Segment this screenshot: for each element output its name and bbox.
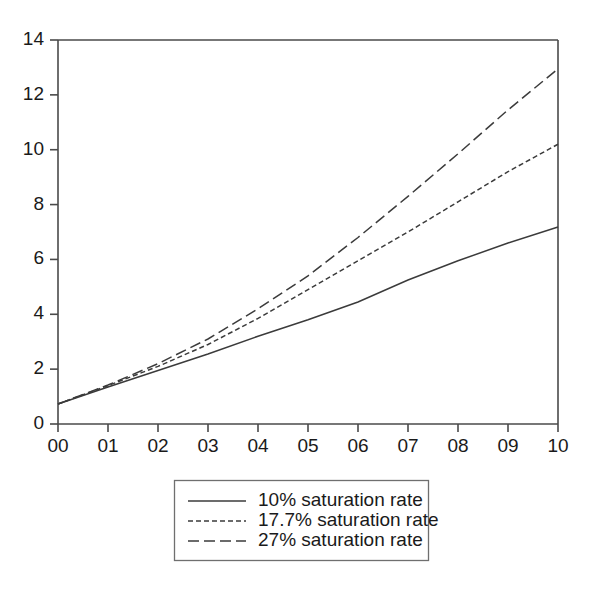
y-tick-label: 10 xyxy=(23,138,44,159)
x-tick-label: 08 xyxy=(447,435,468,456)
chart-legend: 10% saturation rate17.7% saturation rate… xyxy=(175,481,439,561)
y-tick-label: 4 xyxy=(33,302,44,323)
legend-label-2: 17.7% saturation rate xyxy=(258,509,439,530)
series-line-2 xyxy=(58,144,558,404)
y-tick-label: 14 xyxy=(23,28,45,49)
legend-label-3: 27% saturation rate xyxy=(258,529,423,550)
y-tick-label: 0 xyxy=(33,412,44,433)
x-axis-tick-labels: 0001020304050607080910 xyxy=(47,435,568,456)
chart-series-group xyxy=(58,69,558,404)
x-tick-label: 07 xyxy=(397,435,418,456)
y-tick-label: 12 xyxy=(23,83,44,104)
x-tick-label: 02 xyxy=(147,435,168,456)
y-axis-ticks xyxy=(50,40,58,424)
x-tick-label: 05 xyxy=(297,435,318,456)
y-tick-label: 2 xyxy=(33,357,44,378)
chart-figure: 14 12 10 8 6 4 2 0 000102030405060708091… xyxy=(0,0,604,591)
x-tick-label: 06 xyxy=(347,435,368,456)
x-tick-label: 03 xyxy=(197,435,218,456)
series-line-3 xyxy=(58,69,558,404)
x-tick-label: 01 xyxy=(97,435,118,456)
series-line-1 xyxy=(58,227,558,404)
x-axis-ticks xyxy=(58,424,558,432)
x-tick-label: 10 xyxy=(547,435,568,456)
x-tick-label: 00 xyxy=(47,435,68,456)
x-tick-label: 04 xyxy=(247,435,269,456)
legend-label-1: 10% saturation rate xyxy=(258,489,423,510)
y-axis-tick-labels: 14 12 10 8 6 4 2 0 xyxy=(23,28,45,433)
y-tick-label: 6 xyxy=(33,247,44,268)
y-tick-label: 8 xyxy=(33,193,44,214)
line-chart: 14 12 10 8 6 4 2 0 000102030405060708091… xyxy=(0,0,604,591)
x-tick-label: 09 xyxy=(497,435,518,456)
